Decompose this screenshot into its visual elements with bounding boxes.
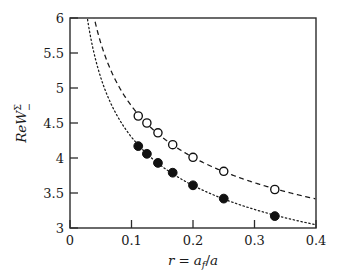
data-point-filled [189, 181, 198, 190]
x-tick-label: 0.3 [244, 233, 265, 248]
y-title-sigma: Σ [12, 104, 23, 111]
open-circle-markers [134, 112, 279, 194]
data-point-filled [134, 142, 143, 151]
chart-figure: 0 0.1 0.2 0.3 0.4 3 3.5 4 4.5 5 5.5 6 r=… [0, 0, 345, 272]
x-title-equals: = [178, 252, 189, 268]
data-point-filled [154, 159, 163, 168]
y-tick-label: 4 [56, 151, 64, 166]
data-point-open [143, 119, 151, 127]
y-title-minus: − [23, 103, 34, 111]
data-point-open [220, 167, 228, 175]
data-point-open [189, 153, 197, 161]
svg-text:ReWΣ−: ReWΣ− [12, 103, 34, 144]
data-point-open [154, 129, 162, 137]
x-title-a2: a [210, 252, 218, 268]
x-axis-title: r=af/a [168, 252, 218, 270]
y-title-re: Re [13, 125, 29, 144]
data-point-filled [168, 168, 177, 177]
x-title-r: r [168, 252, 176, 268]
data-point-open [169, 141, 177, 149]
dashed-fit-curve [90, 0, 316, 199]
x-title-a: a [194, 252, 202, 268]
plot-frame [70, 18, 316, 228]
y-axis-ticks [70, 18, 78, 228]
x-tick-label: 0 [66, 233, 74, 248]
y-tick-label: 4.5 [43, 116, 64, 131]
data-point-open [134, 112, 142, 120]
data-point-filled [142, 149, 151, 158]
y-tick-label: 5.5 [43, 46, 64, 61]
filled-circle-markers [134, 142, 279, 221]
data-point-open [271, 185, 279, 193]
y-tick-labels: 3 3.5 4 4.5 5 5.5 6 [43, 11, 64, 236]
y-axis-title: ReWΣ− [12, 103, 34, 144]
x-tick-label: 0.4 [306, 233, 327, 248]
y-tick-label: 3.5 [43, 186, 64, 201]
x-tick-label: 0.1 [121, 233, 142, 248]
y-tick-label: 3 [56, 221, 64, 236]
x-tick-labels: 0 0.1 0.2 0.3 0.4 [66, 233, 326, 248]
y-tick-label: 6 [56, 11, 64, 26]
y-tick-label: 5 [56, 81, 64, 96]
x-axis-ticks [70, 220, 316, 228]
plot-canvas: 0 0.1 0.2 0.3 0.4 3 3.5 4 4.5 5 5.5 6 r=… [0, 0, 345, 272]
data-point-filled [219, 194, 228, 203]
x-tick-label: 0.2 [183, 233, 204, 248]
data-point-filled [270, 212, 279, 221]
svg-text:r=af/a: r=af/a [168, 252, 218, 270]
